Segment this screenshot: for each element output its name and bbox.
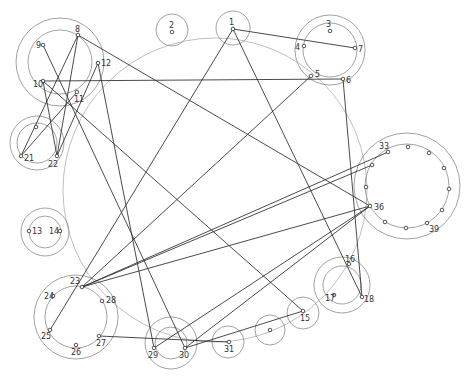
node-labels: 1234567891011121314151617182122232425262… — [24, 18, 439, 360]
node-label: 12 — [101, 59, 111, 68]
node-marker[interactable] — [152, 346, 156, 350]
node-marker[interactable] — [80, 285, 84, 289]
node-marker[interactable] — [309, 74, 313, 78]
node-label: 23 — [70, 277, 80, 286]
edge-line — [57, 63, 98, 156]
edge-line — [233, 29, 355, 48]
node-label: 15 — [300, 314, 310, 323]
node-marker[interactable] — [97, 334, 101, 338]
node-marker[interactable] — [370, 163, 374, 167]
node-label: 6 — [346, 76, 351, 85]
node-marker[interactable] — [447, 187, 451, 191]
node-marker[interactable] — [406, 145, 410, 149]
edge-line — [43, 79, 343, 81]
edge-line — [82, 76, 311, 287]
node-marker[interactable] — [368, 204, 372, 208]
node-marker[interactable] — [96, 61, 100, 65]
node-label: 3 — [326, 20, 331, 29]
node-marker[interactable] — [301, 309, 305, 313]
node-label: 26 — [71, 348, 81, 357]
node-label: 5 — [315, 70, 320, 79]
node-label: 18 — [364, 295, 374, 304]
node-label: 7 — [358, 45, 363, 54]
node-marker[interactable] — [404, 226, 408, 230]
node-label: 36 — [374, 203, 384, 212]
node-label: 29 — [148, 351, 158, 360]
node-marker[interactable] — [364, 185, 368, 189]
node-label: 24 — [44, 292, 54, 301]
node-marker[interactable] — [41, 43, 45, 47]
node-marker[interactable] — [302, 44, 306, 48]
node-label: 1 — [229, 18, 234, 27]
edge-line — [78, 35, 370, 206]
node-marker[interactable] — [440, 208, 444, 212]
node-marker[interactable] — [27, 229, 31, 233]
node-label: 16 — [345, 255, 355, 264]
cluster-outer-ring — [16, 18, 104, 106]
node-marker[interactable] — [442, 166, 446, 170]
node-marker[interactable] — [268, 328, 272, 332]
node-marker[interactable] — [341, 77, 345, 81]
edge-line — [98, 63, 154, 348]
node-label: 4 — [295, 43, 300, 52]
node-label: 21 — [24, 154, 34, 163]
node-label: 33 — [379, 142, 389, 151]
node-marker[interactable] — [100, 299, 104, 303]
node-label: 11 — [74, 95, 84, 104]
cluster-outer-ring — [314, 257, 370, 313]
node-label: 27 — [96, 339, 106, 348]
node-marker[interactable] — [74, 343, 78, 347]
node-label: 28 — [106, 296, 116, 305]
edge-line — [82, 165, 372, 287]
node-label: 25 — [41, 332, 51, 341]
edge-line — [82, 152, 388, 287]
node-marker[interactable] — [383, 220, 387, 224]
node-label: 14 — [49, 227, 59, 236]
node-marker[interactable] — [231, 27, 235, 31]
node-label: 31 — [224, 345, 234, 354]
node-marker[interactable] — [55, 154, 59, 158]
node-marker[interactable] — [427, 151, 431, 155]
edge-line — [233, 29, 362, 297]
node-marker[interactable] — [183, 346, 187, 350]
node-label: 17 — [325, 294, 335, 303]
edge-line — [154, 206, 370, 348]
node-label: 10 — [33, 80, 43, 89]
node-label: 39 — [429, 225, 439, 234]
node-marker[interactable] — [34, 125, 38, 129]
node-marker[interactable] — [19, 154, 23, 158]
node-marker[interactable] — [328, 29, 332, 33]
edge-line — [21, 92, 77, 156]
node-label: 13 — [32, 227, 42, 236]
node-marker[interactable] — [170, 30, 174, 34]
node-marker[interactable] — [75, 90, 79, 94]
node-label: 9 — [36, 41, 41, 50]
cluster-rings — [10, 11, 460, 369]
cluster-inner-ring — [17, 123, 57, 163]
node-label: 22 — [48, 160, 58, 169]
node-marker[interactable] — [227, 340, 231, 344]
node-label: 30 — [179, 351, 189, 360]
node-marker[interactable] — [353, 46, 357, 50]
diagram-canvas: 1234567891011121314151617182122232425262… — [0, 0, 471, 380]
node-label: 8 — [75, 25, 80, 34]
edge-line — [43, 81, 303, 311]
node-label: 2 — [169, 21, 174, 30]
edge-line — [82, 206, 370, 287]
edge-line — [185, 206, 370, 348]
nodes — [19, 27, 451, 350]
